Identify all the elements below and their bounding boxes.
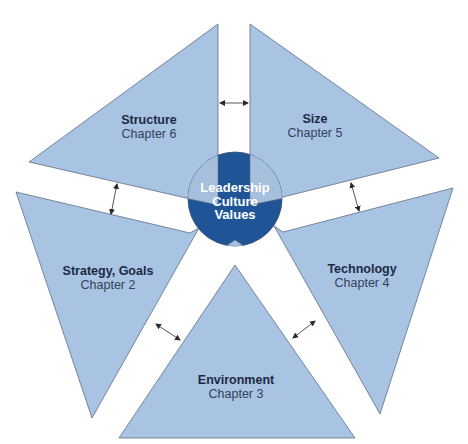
strategy-chapter: Chapter 2 — [63, 278, 154, 292]
label-strategy: Strategy, Goals Chapter 2 — [63, 264, 154, 292]
label-technology: Technology Chapter 4 — [327, 262, 396, 290]
label-structure: Structure Chapter 6 — [121, 113, 177, 141]
connector-size-technology — [351, 183, 359, 211]
label-environment: Environment Chapter 3 — [198, 373, 274, 401]
environment-title: Environment — [198, 373, 274, 387]
connector-structure-strategy — [111, 184, 117, 214]
structure-title: Structure — [121, 113, 177, 127]
size-title: Size — [288, 112, 343, 126]
core-label: Leadership Culture Values — [200, 181, 269, 222]
strategy-title: Strategy, Goals — [63, 264, 154, 278]
connector-strategy-environment — [156, 324, 180, 340]
label-size: Size Chapter 5 — [288, 112, 343, 140]
core-line-leadership: Leadership — [200, 181, 269, 195]
core-line-values: Values — [200, 208, 269, 222]
size-chapter: Chapter 5 — [288, 126, 343, 140]
technology-title: Technology — [327, 262, 396, 276]
panel-size — [250, 24, 439, 205]
connector-technology-environment — [293, 321, 315, 338]
environment-chapter: Chapter 3 — [198, 387, 274, 401]
technology-chapter: Chapter 4 — [327, 276, 396, 290]
structure-chapter: Chapter 6 — [121, 127, 177, 141]
core-line-culture: Culture — [200, 195, 269, 209]
